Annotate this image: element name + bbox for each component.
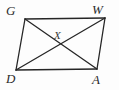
- vertex-label-d: D: [6, 72, 15, 85]
- intersection-label-x: X: [54, 30, 61, 41]
- vertex-label-w: W: [92, 3, 103, 16]
- side-GW-line: [25, 18, 105, 19]
- vertex-label-g: G: [6, 4, 15, 17]
- side-AD-line: [16, 69, 97, 70]
- vertex-label-a: A: [92, 73, 100, 86]
- side-WA-line: [97, 18, 105, 69]
- diagonal-WD-line: [16, 18, 105, 70]
- parallelogram-diagonals: [16, 18, 105, 70]
- side-DG-line: [16, 19, 25, 70]
- geometry-figure: G W A D X: [0, 0, 119, 90]
